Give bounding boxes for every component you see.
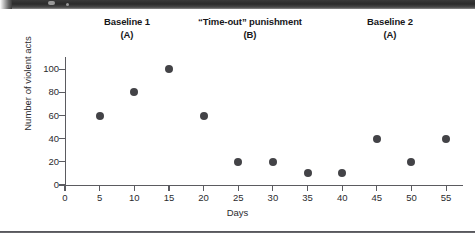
y-axis-tick-label: 100	[0, 64, 59, 74]
x-axis-tick-label: 5	[85, 192, 115, 203]
data-point	[200, 112, 208, 120]
x-axis-tick-label: 55	[431, 192, 461, 203]
y-axis-tick-label-text: 0	[19, 180, 59, 190]
y-axis-tick	[59, 69, 65, 70]
x-axis-tick	[307, 185, 308, 191]
x-axis-tick	[446, 185, 447, 191]
x-axis-tick-label: 50	[396, 192, 426, 203]
y-axis-line	[65, 57, 66, 186]
x-axis-tick-label: 40	[327, 192, 357, 203]
y-axis-tick-label: 0	[0, 180, 59, 190]
x-axis-tick	[134, 185, 135, 191]
x-axis-tick	[64, 185, 65, 191]
data-point	[442, 135, 450, 143]
x-axis-tick-label: 15	[154, 192, 184, 203]
figure-bottom-rule	[0, 231, 475, 233]
data-point	[338, 169, 346, 177]
x-axis-tick-label: 45	[362, 192, 392, 203]
y-axis-tick-label-text: 40	[19, 134, 59, 144]
x-axis-tick	[168, 185, 169, 191]
x-axis-tick-label: 30	[258, 192, 288, 203]
y-axis-tick	[59, 92, 65, 93]
x-axis-tick	[411, 185, 412, 191]
y-axis-tick-label: 20	[0, 157, 59, 167]
y-axis-tick-label-text: 20	[19, 157, 59, 167]
y-axis-tick-label: 80	[0, 87, 59, 97]
x-axis-tick-label: 35	[293, 192, 323, 203]
data-point	[130, 88, 138, 96]
data-point	[165, 65, 173, 73]
y-axis-tick-label-text: 80	[19, 87, 59, 97]
y-axis-tick	[59, 138, 65, 139]
x-axis-title: Days	[0, 207, 475, 218]
data-point	[407, 158, 415, 166]
x-axis-tick	[376, 185, 377, 191]
x-axis-line	[65, 185, 463, 186]
x-axis-tick	[203, 185, 204, 191]
y-axis-tick-label: 40	[0, 134, 59, 144]
x-axis-tick	[272, 185, 273, 191]
x-axis-tick-label: 10	[119, 192, 149, 203]
data-point	[269, 158, 277, 166]
data-point	[373, 135, 381, 143]
y-axis-tick-label-text: 60	[19, 111, 59, 121]
x-axis-tick-label: 25	[223, 192, 253, 203]
x-axis-tick	[99, 185, 100, 191]
data-point	[234, 158, 242, 166]
y-axis-tick	[59, 115, 65, 116]
y-axis-tick-label: 60	[0, 111, 59, 121]
y-axis-tick	[59, 161, 65, 162]
x-axis-tick-label: 20	[189, 192, 219, 203]
data-point	[304, 169, 312, 177]
scatter-plot: Number of violent acts Days 020406080100…	[0, 0, 475, 240]
y-axis-tick-label-text: 100	[19, 64, 59, 74]
x-axis-tick-label: 0	[50, 192, 80, 203]
data-point	[96, 112, 104, 120]
x-axis-tick	[238, 185, 239, 191]
x-axis-tick	[342, 185, 343, 191]
